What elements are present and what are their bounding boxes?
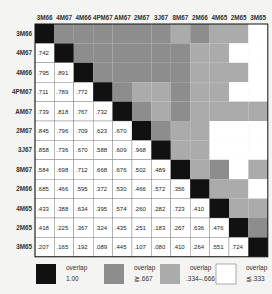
shaded-cell	[210, 102, 229, 121]
row-label: 8M67	[16, 166, 32, 173]
row-label: 2M67	[16, 127, 32, 134]
row-label: 3M65	[16, 243, 32, 250]
shaded-cell	[210, 179, 229, 198]
cell-value-label: .676	[115, 167, 127, 173]
shaded-cell	[54, 24, 73, 43]
shaded-cell	[171, 43, 190, 62]
row-label: 4M67	[16, 49, 32, 56]
cell-value-label: .772	[76, 89, 88, 95]
cell-value-label: .410	[192, 206, 204, 212]
cell-value-label: .183	[154, 225, 166, 231]
shaded-cell	[113, 43, 132, 62]
shaded-cell	[93, 63, 112, 82]
shaded-cell	[113, 82, 132, 101]
shaded-cell	[229, 121, 248, 140]
cell-value-label: .711	[37, 89, 49, 95]
diagonal-cell	[229, 218, 248, 237]
shaded-cell	[151, 63, 170, 82]
shaded-cell	[93, 43, 112, 62]
column-label: 2M65	[231, 14, 247, 21]
cell-value-label: .107	[134, 244, 146, 250]
shaded-cell	[171, 24, 190, 43]
cell-value-label: .736	[57, 147, 69, 153]
cell-value-label: .724	[231, 244, 243, 250]
cell-value-label: .698	[57, 167, 69, 173]
shaded-cell	[151, 24, 170, 43]
cell-value-label: .267	[173, 225, 185, 231]
legend-label: overlap	[190, 264, 212, 272]
shaded-cell	[248, 102, 267, 121]
diagonal-cell	[248, 237, 267, 256]
shaded-cell	[229, 24, 248, 43]
shaded-cell	[151, 82, 170, 101]
diagonal-cell	[190, 179, 209, 198]
cell-value-label: .089	[95, 244, 107, 250]
legend-value: 1.00	[66, 275, 79, 282]
cell-value-label: .251	[134, 225, 146, 231]
shaded-cell	[190, 140, 209, 159]
cell-value-label: .595	[76, 186, 88, 192]
shaded-cell	[210, 160, 229, 179]
row-labels: 3M664M674M664PM67AM672M673J678M672M664M6…	[12, 30, 32, 250]
cell-value-label: .572	[154, 186, 166, 192]
matrix-cells	[35, 24, 268, 257]
shaded-cell	[248, 121, 267, 140]
row-label: AM67	[15, 108, 32, 115]
shaded-cell	[229, 82, 248, 101]
shaded-cell	[171, 82, 190, 101]
legend-label: overlap	[66, 264, 88, 272]
cell-value-label: .282	[154, 206, 166, 212]
column-label: 4PM67	[93, 14, 113, 21]
cell-value-label: .207	[37, 244, 49, 250]
diagonal-cell	[171, 160, 190, 179]
cell-value-label: .260	[134, 206, 146, 212]
column-label: 2M66	[192, 14, 208, 21]
diagonal-cell	[132, 121, 151, 140]
shaded-cell	[248, 218, 267, 237]
cell-value-label: .609	[115, 147, 127, 153]
cell-value-label: .732	[95, 109, 107, 115]
row-label: 3J67	[18, 146, 33, 153]
overlap-matrix-chart: .742.795.891.711.789.772.739.818.767.732…	[0, 0, 272, 294]
cell-value-label: .372	[95, 186, 107, 192]
column-label: AM67	[114, 14, 131, 21]
shaded-cell	[113, 24, 132, 43]
shaded-cell	[74, 24, 93, 43]
shaded-cell	[190, 82, 209, 101]
shaded-cell	[171, 63, 190, 82]
cell-value-label: .723	[173, 206, 185, 212]
shaded-cell	[210, 24, 229, 43]
row-label: 4M65	[16, 205, 32, 212]
cell-value-label: .796	[57, 128, 69, 134]
column-label: 4M66	[76, 14, 92, 21]
cell-value-label: .225	[57, 225, 69, 231]
legend-swatch	[36, 264, 56, 284]
shaded-cell	[151, 102, 170, 121]
cell-value-label: .636	[192, 225, 204, 231]
column-label: 2M67	[134, 14, 150, 21]
shaded-cell	[248, 43, 267, 62]
cell-value-label: .080	[154, 244, 166, 250]
diagonal-cell	[210, 199, 229, 218]
cell-value-label: .410	[173, 244, 185, 250]
column-label: 3J67	[154, 14, 169, 21]
cell-value-label: .324	[95, 225, 107, 231]
cell-value-label: .712	[76, 167, 88, 173]
shaded-cell	[132, 63, 151, 82]
row-label: 2M65	[16, 224, 32, 231]
cell-value-label: .818	[57, 109, 69, 115]
cell-value-label: .476	[212, 225, 224, 231]
cell-value-label: .670	[115, 128, 127, 134]
shaded-cell	[190, 160, 209, 179]
row-label: 4M66	[16, 69, 32, 76]
shaded-cell	[113, 63, 132, 82]
cell-value-label: .502	[134, 167, 146, 173]
diagonal-cell	[113, 102, 132, 121]
cell-value-label: .435	[115, 225, 127, 231]
cell-value-label: .685	[37, 186, 49, 192]
legend: overlap1.00overlap≧.667overlap.334–.666o…	[36, 264, 268, 284]
shaded-cell	[210, 140, 229, 159]
shaded-cell	[210, 63, 229, 82]
shaded-cell	[229, 160, 248, 179]
shaded-cell	[132, 102, 151, 121]
